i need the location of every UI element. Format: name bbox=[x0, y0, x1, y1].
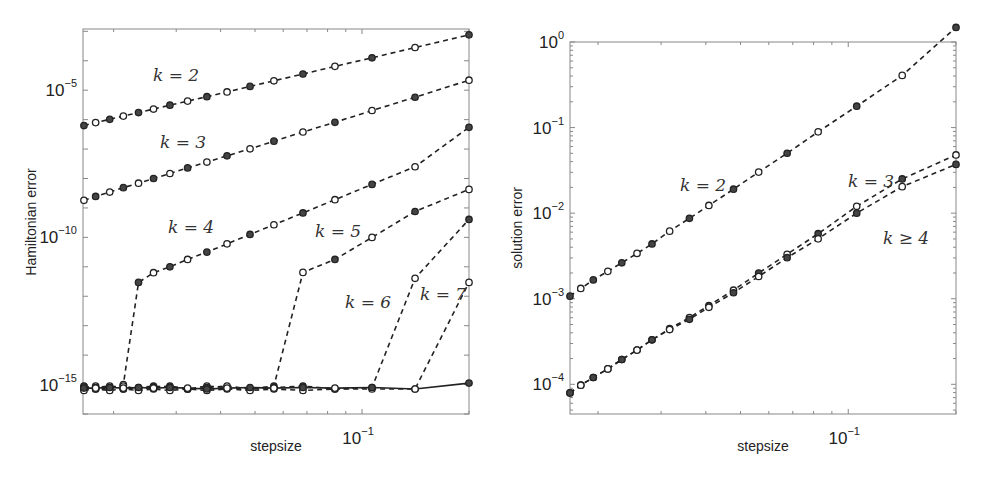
data-point-marker bbox=[578, 382, 584, 388]
y-tick-label: 10−3 bbox=[533, 286, 564, 309]
data-point-marker bbox=[466, 32, 472, 38]
x-tick-label: 10−1 bbox=[342, 425, 373, 448]
data-point-marker bbox=[224, 89, 230, 95]
series-annotation: k = 3 bbox=[160, 132, 206, 152]
y-tick-label: 10−5 bbox=[46, 77, 77, 100]
data-point-marker bbox=[300, 269, 306, 275]
data-point-marker bbox=[605, 268, 611, 274]
data-point-marker bbox=[755, 169, 761, 175]
series-annotation: k = 2 bbox=[680, 175, 726, 195]
data-point-marker bbox=[686, 316, 692, 322]
data-point-marker bbox=[466, 380, 472, 386]
right-y-axis-label: solution error bbox=[509, 187, 525, 269]
data-point-marker bbox=[666, 326, 672, 332]
data-point-marker bbox=[412, 386, 418, 392]
left-y-axis-label: Hamiltonian error bbox=[23, 168, 39, 276]
data-point-marker bbox=[107, 384, 113, 390]
data-point-marker bbox=[150, 385, 156, 391]
data-point-marker bbox=[271, 222, 277, 228]
y-tick-label: 10−10 bbox=[39, 224, 77, 247]
series-k-4 bbox=[81, 124, 472, 391]
series-annotation: k ≥ 4 bbox=[883, 228, 929, 248]
data-point-marker bbox=[81, 122, 87, 128]
data-point-marker bbox=[247, 231, 253, 237]
data-point-marker bbox=[224, 385, 230, 391]
data-point-marker bbox=[167, 102, 173, 108]
data-point-marker bbox=[466, 186, 472, 192]
data-point-marker bbox=[815, 129, 821, 135]
series-annotation: k = 7 bbox=[420, 284, 466, 304]
data-point-marker bbox=[135, 384, 141, 390]
data-point-marker bbox=[369, 55, 375, 61]
data-point-marker bbox=[369, 234, 375, 240]
y-tick-label: 10−4 bbox=[533, 371, 564, 394]
data-point-marker bbox=[247, 146, 253, 152]
series-k-2 bbox=[81, 32, 472, 129]
data-point-marker bbox=[184, 165, 190, 171]
data-point-marker bbox=[271, 138, 277, 144]
series-annotation: k = 2 bbox=[153, 65, 199, 85]
data-point-marker bbox=[899, 176, 905, 182]
data-point-marker bbox=[634, 347, 640, 353]
data-point-marker bbox=[412, 208, 418, 214]
data-point-marker bbox=[730, 290, 736, 296]
data-point-marker bbox=[619, 260, 625, 266]
data-point-marker bbox=[184, 385, 190, 391]
data-point-marker bbox=[150, 270, 156, 276]
data-point-marker bbox=[634, 250, 640, 256]
solution-error-plot: 10010−110−210−310−410−1k = 2k = 3k ≥ 4 bbox=[533, 24, 960, 448]
data-point-marker bbox=[204, 249, 210, 255]
data-point-marker bbox=[666, 228, 672, 234]
data-point-marker bbox=[300, 71, 306, 77]
data-point-marker bbox=[412, 44, 418, 50]
data-point-marker bbox=[167, 170, 173, 176]
data-point-marker bbox=[167, 384, 173, 390]
data-point-marker bbox=[300, 129, 306, 135]
data-point-marker bbox=[247, 384, 253, 390]
data-point-marker bbox=[649, 241, 655, 247]
series-annotation: k = 6 bbox=[345, 292, 391, 312]
data-point-marker bbox=[590, 374, 596, 380]
data-point-marker bbox=[332, 256, 338, 262]
y-tick-label: 10−2 bbox=[533, 200, 564, 223]
right-x-axis-label: stepsize bbox=[737, 438, 789, 454]
data-point-marker bbox=[224, 153, 230, 159]
data-point-marker bbox=[332, 385, 338, 391]
figure: 10−510−1010−1510−1k = 2k = 3k = 4k = 5k … bbox=[0, 0, 987, 492]
data-point-marker bbox=[81, 197, 87, 203]
data-point-marker bbox=[953, 161, 959, 167]
series-annotation: k = 4 bbox=[168, 217, 214, 237]
data-point-marker bbox=[184, 98, 190, 104]
data-point-marker bbox=[369, 181, 375, 187]
left-x-axis-label: stepsize bbox=[250, 438, 302, 454]
hamiltonian-error-plot: 10−510−1010−1510−1k = 2k = 3k = 4k = 5k … bbox=[39, 29, 472, 448]
y-tick-label: 10−15 bbox=[39, 372, 77, 395]
data-point-marker bbox=[369, 107, 375, 113]
data-point-marker bbox=[204, 93, 210, 99]
data-point-marker bbox=[567, 390, 573, 396]
data-point-marker bbox=[332, 119, 338, 125]
data-point-marker bbox=[649, 337, 655, 343]
data-point-marker bbox=[619, 356, 625, 362]
series-k-3 bbox=[81, 77, 472, 203]
data-point-marker bbox=[135, 180, 141, 186]
data-point-marker bbox=[854, 103, 860, 109]
data-point-marker bbox=[107, 116, 113, 122]
series-annotation: k = 3 bbox=[848, 171, 894, 191]
data-point-marker bbox=[204, 386, 210, 392]
data-point-marker bbox=[466, 216, 472, 222]
data-point-marker bbox=[184, 256, 190, 262]
data-point-marker bbox=[224, 241, 230, 247]
data-point-marker bbox=[92, 385, 98, 391]
data-point-marker bbox=[686, 215, 692, 221]
data-point-marker bbox=[466, 77, 472, 83]
data-point-marker bbox=[755, 273, 761, 279]
y-tick-label: 10−1 bbox=[533, 115, 564, 138]
data-point-marker bbox=[412, 164, 418, 170]
data-point-marker bbox=[81, 385, 87, 391]
data-point-marker bbox=[332, 63, 338, 69]
data-point-marker bbox=[204, 159, 210, 165]
data-point-marker bbox=[300, 384, 306, 390]
data-point-marker bbox=[590, 277, 596, 283]
data-point-marker bbox=[369, 384, 375, 390]
